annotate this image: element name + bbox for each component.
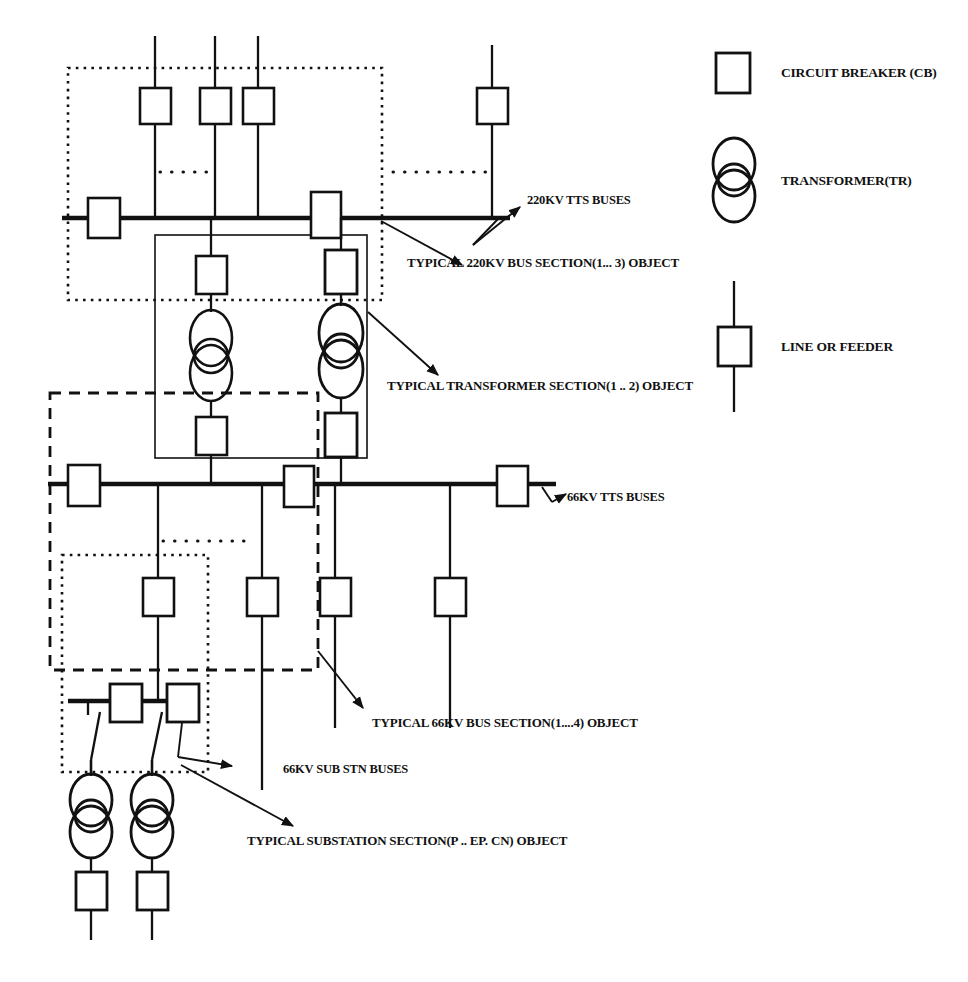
legend-line-feeder-icon — [718, 281, 751, 412]
legend-label-line-feeder: LINE OR FEEDER — [781, 339, 893, 355]
label-section-transformer: TYPICAL TRANSFORMER SECTION(1 .. 2) OBJE… — [387, 378, 693, 394]
cb-66kv-bus-tie-left — [68, 465, 100, 506]
cb-220kv-feeder-1 — [140, 88, 171, 124]
cb-66kv-feeder-2 — [247, 578, 278, 616]
cb-66kv-feeder-4 — [435, 578, 466, 616]
cb-66kv-bus-tie-right — [497, 466, 528, 506]
legend-label-transformer: TRANSFORMER(TR) — [781, 173, 912, 189]
leader-bus-220kv — [473, 207, 520, 245]
label-section-220kv-bus: TYPICAL 220KV BUS SECTION(1... 3) OBJECT — [407, 255, 679, 271]
cb-66kv-feeder-3 — [320, 578, 351, 616]
label-bus-66kv: 66KV TTS BUSES — [567, 490, 664, 505]
cb-substation-transformer-2-lv — [137, 872, 168, 910]
cb-66kv-feeder-1 — [143, 578, 174, 616]
diagram-canvas: 220KV TTS BUSES TYPICAL 220KV BUS SECTIO… — [0, 0, 968, 982]
cb-transformer-left-lv — [196, 417, 227, 455]
cb-66kv-bus-tie-mid — [284, 466, 314, 507]
label-bus-220kv: 220KV TTS BUSES — [527, 193, 631, 208]
feeder-66kv-3 — [320, 484, 351, 728]
leader-bus-66kv — [542, 487, 566, 502]
cb-substation-right — [167, 684, 199, 722]
substation-connector-right — [152, 712, 162, 776]
feeder-66kv-4 — [435, 484, 466, 728]
label-section-66kv-bus: TYPICAL 66KV BUS SECTION(1....4) OBJECT — [372, 715, 638, 731]
cb-substation-left — [110, 684, 142, 722]
feeder-66kv-1 — [143, 484, 174, 701]
legend-label-circuit-breaker: CIRCUIT BREAKER (CB) — [781, 65, 937, 81]
cb-transformer-left-hv — [196, 256, 227, 294]
transformer-branch-right — [319, 218, 363, 484]
cb-transformer-right-lv — [325, 413, 357, 457]
cb-transformer-right-hv — [325, 250, 357, 294]
feeder-66kv-2 — [247, 484, 278, 790]
cb-substation-transformer-1-lv — [76, 872, 107, 910]
cb-220kv-bus-tie-left — [88, 198, 120, 238]
leader-section-transformer — [368, 312, 438, 375]
cb-220kv-feeder-3 — [243, 88, 274, 124]
substation-transformer-1 — [70, 774, 112, 940]
section-box-substation — [62, 555, 208, 772]
section-box-66kv-bus — [50, 393, 318, 670]
leader-section-substation — [181, 765, 293, 826]
cb-220kv-feeder-4 — [477, 88, 508, 124]
legend-transformer-icon — [713, 138, 755, 222]
leader-bus-substation — [178, 723, 232, 766]
cb-220kv-feeder-2 — [200, 88, 231, 124]
label-bus-66kv-substation: 66KV SUB STN BUSES — [283, 762, 408, 777]
label-section-substation: TYPICAL SUBSTATION SECTION(P .. EP. CN) … — [247, 833, 567, 849]
cb-220kv-bus-tie-right — [311, 192, 341, 238]
transformer-branch-left — [190, 218, 232, 484]
substation-connector-left — [91, 712, 100, 776]
leader-section-66kv — [318, 651, 363, 708]
substation-transformer-2 — [131, 774, 173, 940]
legend-circuit-breaker-icon — [716, 53, 750, 93]
